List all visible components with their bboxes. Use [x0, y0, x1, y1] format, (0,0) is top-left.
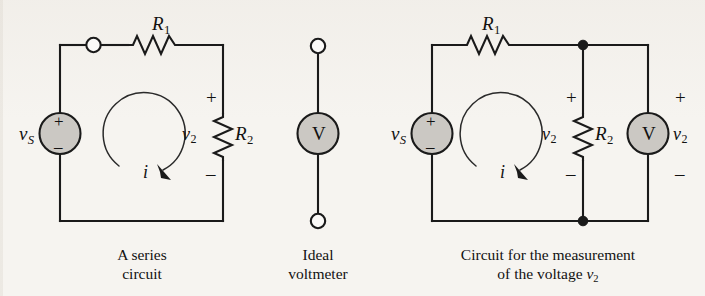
- panel3-bottom-junction: [578, 216, 588, 226]
- panel3-circuit: [412, 36, 669, 226]
- panel1-terminal-node: [86, 38, 100, 52]
- panel1-voltage-source: [40, 113, 81, 154]
- panel3-meter-body: [628, 113, 669, 154]
- panel1-circuit: [40, 36, 233, 221]
- panel2-meter-body: [298, 113, 339, 154]
- panel2-top-terminal: [311, 39, 325, 53]
- figure-canvas: R1 vS + – + v2 – R2 i V R1 vS + – + v2 –…: [0, 0, 705, 296]
- panel2-voltmeter: [298, 39, 339, 228]
- panel2-bottom-terminal: [311, 214, 325, 228]
- circuit-artwork: [0, 0, 705, 296]
- panel3-top-junction: [578, 40, 588, 50]
- panel3-voltage-source: [412, 113, 453, 154]
